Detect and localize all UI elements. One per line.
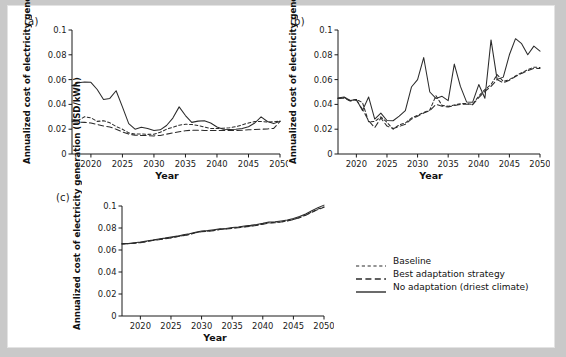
legend-item-best-adaptation-strategy: Best adaptation strategy [356, 267, 546, 280]
svg-text:0.1: 0.1 [103, 201, 116, 211]
svg-text:2035: 2035 [222, 321, 243, 331]
svg-text:2050: 2050 [313, 321, 334, 331]
panel-b-x-axis-label: Year [316, 170, 546, 181]
series-baseline [122, 207, 324, 244]
panel-c-plot: 00.020.040.060.080.120202025203020352040… [56, 190, 334, 350]
series-best-adaptation-strategy [122, 207, 324, 244]
legend-swatch-no-adaptation [356, 282, 386, 292]
svg-text:0.06: 0.06 [314, 75, 333, 85]
svg-text:0.02: 0.02 [314, 124, 333, 134]
svg-text:2030: 2030 [143, 159, 164, 169]
svg-text:2050: 2050 [529, 159, 550, 169]
svg-text:0.08: 0.08 [48, 50, 67, 60]
legend-label-no-adaptation: No adaptation (driest climate) [393, 282, 529, 292]
legend: Baseline Best adaptation strategy No ada… [356, 254, 546, 293]
panel-b: (b) Annualized cost of electricity gener… [288, 16, 550, 188]
svg-text:0.1: 0.1 [319, 25, 332, 35]
svg-text:2030: 2030 [191, 321, 212, 331]
legend-item-baseline: Baseline [356, 254, 546, 267]
svg-text:2020: 2020 [80, 159, 101, 169]
svg-text:2040: 2040 [252, 321, 273, 331]
svg-text:0.04: 0.04 [314, 99, 333, 109]
svg-text:0.08: 0.08 [314, 50, 333, 60]
svg-text:2050: 2050 [269, 159, 288, 169]
svg-text:0: 0 [111, 311, 116, 321]
svg-text:0.06: 0.06 [48, 75, 67, 85]
svg-text:0: 0 [61, 149, 66, 159]
svg-text:2045: 2045 [499, 159, 520, 169]
svg-text:2035: 2035 [438, 159, 459, 169]
svg-text:0.1: 0.1 [53, 25, 66, 35]
svg-text:2020: 2020 [130, 321, 151, 331]
svg-text:2035: 2035 [175, 159, 196, 169]
legend-item-no-adaptation: No adaptation (driest climate) [356, 280, 546, 293]
legend-swatch-baseline [356, 256, 386, 266]
svg-text:2025: 2025 [376, 159, 397, 169]
svg-text:2025: 2025 [112, 159, 133, 169]
svg-text:0.06: 0.06 [98, 245, 117, 255]
panel-a: (a) Annualized cost of electricity gener… [20, 16, 288, 188]
panel-c-x-axis-label: Year [100, 332, 330, 343]
svg-text:0.02: 0.02 [48, 124, 67, 134]
svg-text:0.08: 0.08 [98, 223, 117, 233]
figure-frame: (a) Annualized cost of electricity gener… [8, 6, 554, 347]
svg-text:2030: 2030 [407, 159, 428, 169]
series-no-adaptation-driest-climate [122, 205, 324, 244]
series-best-adaptation-strategy [72, 122, 280, 136]
svg-text:2040: 2040 [206, 159, 227, 169]
svg-text:0.04: 0.04 [48, 99, 67, 109]
svg-text:0.04: 0.04 [98, 267, 117, 277]
panel-c: (c) Annualized cost of electricity gener… [56, 190, 334, 350]
panel-b-plot: 00.020.040.060.080.120202025203020352040… [288, 16, 550, 188]
svg-text:0: 0 [327, 149, 332, 159]
svg-text:2045: 2045 [238, 159, 259, 169]
svg-text:2020: 2020 [346, 159, 367, 169]
svg-text:2040: 2040 [468, 159, 489, 169]
svg-text:2025: 2025 [160, 321, 181, 331]
panel-a-x-axis-label: Year [50, 170, 284, 181]
legend-label-best-adaptation-strategy: Best adaptation strategy [393, 269, 505, 279]
legend-swatch-best-adaptation-strategy [356, 269, 386, 279]
panel-a-plot: 00.020.040.060.080.120202025203020352040… [20, 16, 288, 188]
svg-text:2045: 2045 [283, 321, 304, 331]
legend-label-baseline: Baseline [393, 256, 431, 266]
svg-text:0.02: 0.02 [98, 289, 117, 299]
